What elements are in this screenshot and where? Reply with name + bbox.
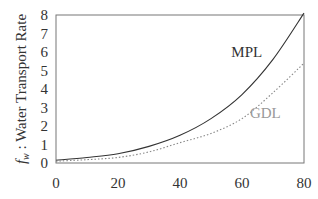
y-tick-label: 8: [41, 7, 49, 23]
y-tick-label: 4: [41, 81, 49, 97]
x-tick-label: 20: [111, 175, 126, 191]
x-tick-label: 40: [173, 175, 188, 191]
plot-area-frame: [56, 15, 304, 163]
x-axis-ticks: 020406080: [52, 175, 311, 191]
mpl-line: [56, 13, 304, 160]
y-tick-label: 0: [41, 155, 49, 171]
x-tick-label: 60: [235, 175, 250, 191]
water-transport-chart: 012345678 020406080 MPL GDL fw : Water T…: [0, 0, 318, 199]
y-axis-label: fw : Water Transport Rate: [13, 14, 31, 165]
y-tick-label: 1: [41, 137, 49, 153]
y-tick-label: 5: [41, 63, 49, 79]
mpl-label: MPL: [231, 44, 262, 60]
y-tick-label: 7: [41, 26, 49, 42]
y-tick-label: 2: [41, 118, 49, 134]
y-axis-ticks: 012345678: [41, 7, 49, 171]
x-tick-label: 80: [297, 175, 312, 191]
y-tick-label: 3: [41, 100, 49, 116]
x-tick-label: 0: [52, 175, 60, 191]
gdl-label: GDL: [250, 105, 281, 121]
y-tick-label: 6: [41, 44, 49, 60]
